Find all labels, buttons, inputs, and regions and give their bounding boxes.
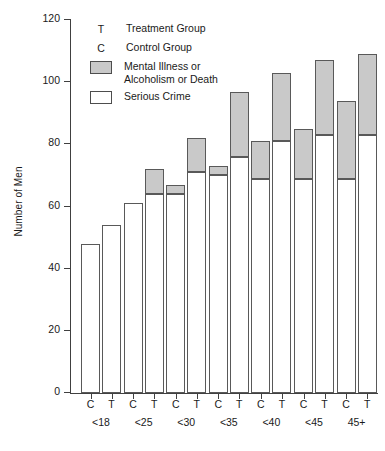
y-tick-label: 100 (30, 74, 60, 86)
y-tick-label: 60 (30, 199, 60, 211)
y-tick: 80 (64, 143, 71, 144)
x-tick-label-C: C (124, 398, 143, 410)
segment-mental-illness (294, 129, 313, 179)
bar-lt45-T (315, 60, 334, 393)
bar-lt40-T (272, 73, 291, 393)
y-tick-label: 40 (30, 261, 60, 273)
bar-lt18-C (81, 244, 100, 393)
y-axis-title: Number of Men (13, 137, 24, 267)
segment-serious-crime (187, 172, 206, 393)
x-tick-label-T: T (272, 398, 291, 410)
segment-mental-illness (166, 185, 185, 194)
segment-serious-crime (145, 194, 164, 393)
y-tick: 100 (64, 81, 71, 82)
y-tick: 0 (64, 392, 71, 393)
segment-serious-crime (209, 175, 228, 393)
legend-swatch-crime (90, 91, 112, 104)
x-tick-label-C: C (294, 398, 313, 410)
segment-mental-illness (251, 141, 270, 178)
legend-label: Control Group (126, 41, 192, 54)
segment-serious-crime (230, 157, 249, 393)
segment-mental-illness (187, 138, 206, 172)
segment-serious-crime (294, 179, 313, 393)
bar-lt30-T (187, 138, 206, 393)
segment-serious-crime (166, 194, 185, 393)
bar-lt45-C (294, 129, 313, 393)
legend-label: Serious Crime (124, 90, 191, 103)
chart-container: Number of Men 020406080100120 CT<18CT<25… (0, 0, 385, 451)
segment-serious-crime (315, 135, 334, 393)
bar-lt25-T (145, 169, 164, 393)
bar-lt25-C (124, 203, 143, 393)
x-tick-label-T: T (358, 398, 377, 410)
y-tick: 20 (64, 330, 71, 331)
x-tick-label-C: C (209, 398, 228, 410)
bar-lt40-C (251, 141, 270, 393)
legend-item: Mental Illness orAlcoholism or Death (88, 60, 288, 85)
y-tick: 60 (64, 206, 71, 207)
x-tick-label-C: C (81, 398, 100, 410)
bar-lt18-T (102, 225, 121, 393)
segment-serious-crime (102, 225, 121, 393)
y-tick-label: 120 (30, 12, 60, 24)
legend-swatch-mental (90, 61, 112, 74)
legend-key-C: C (88, 41, 114, 55)
bar-lt30-C (166, 185, 185, 393)
legend-item: Serious Crime (88, 90, 288, 104)
legend-key-T: T (88, 22, 114, 36)
bar-lt35-C (209, 166, 228, 393)
bar-45plus-T (358, 54, 377, 393)
segment-serious-crime (358, 135, 377, 393)
x-tick-label-T: T (145, 398, 164, 410)
x-tick-label-C: C (337, 398, 356, 410)
x-axis-line (70, 393, 378, 394)
segment-mental-illness (209, 166, 228, 175)
y-tick: 120 (64, 19, 71, 20)
x-tick-label-T: T (230, 398, 249, 410)
segment-serious-crime (272, 141, 291, 393)
chart-legend: TTreatment GroupCControl GroupMental Ill… (88, 22, 288, 109)
x-tick-label-T: T (315, 398, 334, 410)
x-tick-label-T: T (102, 398, 121, 410)
segment-mental-illness (315, 60, 334, 135)
x-group-label: 45+ (327, 416, 385, 428)
segment-serious-crime (251, 179, 270, 393)
segment-serious-crime (124, 203, 143, 393)
segment-serious-crime (337, 179, 356, 393)
bar-45plus-C (337, 101, 356, 393)
segment-mental-illness (337, 101, 356, 179)
y-tick: 40 (64, 268, 71, 269)
segment-serious-crime (81, 244, 100, 393)
y-tick-label: 0 (30, 385, 60, 397)
y-tick-label: 20 (30, 323, 60, 335)
x-tick-label-C: C (251, 398, 270, 410)
y-tick-label: 80 (30, 136, 60, 148)
segment-mental-illness (358, 54, 377, 135)
legend-label: Treatment Group (126, 22, 206, 35)
x-tick-label-C: C (166, 398, 185, 410)
legend-item: TTreatment Group (88, 22, 288, 36)
legend-item: CControl Group (88, 41, 288, 55)
bar-lt35-T (230, 92, 249, 394)
segment-mental-illness (145, 169, 164, 194)
legend-label: Mental Illness orAlcoholism or Death (124, 60, 218, 85)
x-tick-label-T: T (187, 398, 206, 410)
y-axis-line (70, 20, 71, 394)
